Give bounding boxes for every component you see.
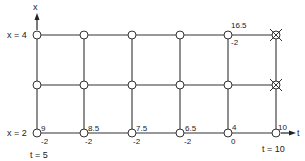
node (33, 129, 41, 137)
node (33, 81, 41, 89)
bottom-node-value-2: 7.5 (136, 124, 148, 133)
node (80, 31, 88, 39)
bottom-node-value-0: 9 (41, 124, 46, 133)
column-label-t5: t = 5 (30, 150, 48, 160)
node (176, 81, 184, 89)
bottom-node-gradient-2: -2 (133, 137, 141, 146)
x-axis-label: x (33, 2, 38, 12)
node (80, 81, 88, 89)
crossed-node-middle-right (270, 79, 282, 91)
column-label-t10: t = 10 (262, 144, 285, 154)
node (128, 129, 136, 137)
bottom-node-value-4: 4 (232, 123, 237, 132)
node (224, 81, 232, 89)
node (176, 129, 184, 137)
bottom-node-gradient-0: -2 (41, 137, 49, 146)
top-node-value: 16.5 (231, 21, 247, 30)
x-axis-arrow (35, 13, 40, 30)
node (33, 31, 41, 39)
bottom-node-value-1: 8.5 (88, 124, 100, 133)
node (128, 81, 136, 89)
row-label-x2: x = 2 (7, 128, 27, 138)
grid-nodes (33, 31, 280, 137)
grid-diagram: x t x = 4 x = 2 t = 5 t = 10 (0, 0, 305, 161)
t-axis-label: t (297, 128, 300, 138)
row-label-x4: x = 4 (7, 30, 27, 40)
top-node-gradient: -2 (231, 38, 239, 47)
node (176, 31, 184, 39)
bottom-node-gradient-1: -2 (85, 137, 93, 146)
bottom-node-value-5: 10 (278, 123, 287, 132)
bottom-node-gradient-4: 0 (231, 137, 236, 146)
node (80, 129, 88, 137)
node (128, 31, 136, 39)
crossed-node-top-right (270, 29, 282, 41)
grid-lines (37, 35, 276, 133)
node (224, 129, 232, 137)
bottom-node-gradient-3: -2 (184, 137, 192, 146)
bottom-node-value-3: 6.5 (185, 124, 197, 133)
